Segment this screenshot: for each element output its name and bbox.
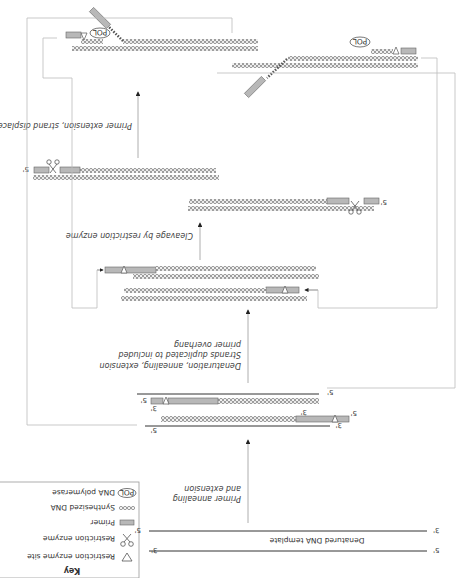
step-label: and extension <box>184 484 241 493</box>
key-title: Key <box>63 566 80 575</box>
primer <box>105 267 156 273</box>
svg-text:5': 5' <box>351 409 357 417</box>
svg-text:5': 5' <box>23 165 29 173</box>
svg-text:3': 3' <box>151 546 157 554</box>
svg-text:5': 5' <box>141 396 147 404</box>
step-label: Denaturation, annealing, extension <box>99 361 241 370</box>
svg-text:3': 3' <box>301 408 307 416</box>
primed-duplexes: 3' 5' 5' 3' 3' 5' 5' <box>137 388 357 434</box>
synthesized-dna <box>218 398 319 404</box>
key-legend: Key Restriction enzyme site Restriction … <box>0 482 139 578</box>
svg-text:3': 3' <box>151 404 157 412</box>
key-item-label: DNA polymerase <box>52 488 115 497</box>
step-label: Cleavage by restriction enzyme <box>66 231 193 240</box>
key-item-label: Restriction enzyme <box>43 534 115 543</box>
svg-text:5': 5' <box>381 198 387 206</box>
primer-overhang <box>151 398 163 404</box>
svg-text:5': 5' <box>151 426 157 434</box>
step-label: Primer extension, strand displacement <box>0 121 132 130</box>
svg-text:POL: POL <box>92 28 107 37</box>
primer <box>168 398 218 404</box>
loop-lines <box>27 18 455 425</box>
diagram-svg: Key Restriction enzyme site Restriction … <box>0 0 467 578</box>
svg-text:5': 5' <box>135 526 141 534</box>
primer <box>296 416 349 422</box>
step-label: Primer annealing <box>173 494 241 503</box>
key-item-label: Restriction enzyme site <box>27 552 115 561</box>
synthesized-dna <box>161 416 296 422</box>
key-item-label: Primer <box>90 518 115 527</box>
strand-displacement: POL POL <box>66 7 418 97</box>
template-label: Denatured DNA template <box>269 536 364 545</box>
step-label: Strands duplicated to included <box>118 350 241 359</box>
key-item-label: Synthesized DNA <box>50 503 115 512</box>
synthesized-dna-icon <box>119 506 135 510</box>
svg-text:3': 3' <box>433 526 439 534</box>
svg-text:POL: POL <box>119 488 134 497</box>
step-label: primer overhang <box>174 340 242 349</box>
svg-text:5': 5' <box>433 546 439 554</box>
cleaved-duplexes: 5' 5' <box>23 160 387 214</box>
overhang-duplexes <box>97 266 319 301</box>
primer-icon <box>120 520 134 525</box>
denatured-template: 3' 5' Denatured DNA template 5' 3' <box>135 526 440 554</box>
svg-text:POL: POL <box>352 37 367 46</box>
sda-diagram: Key Restriction enzyme site Restriction … <box>0 0 467 578</box>
svg-text:5': 5' <box>327 388 333 396</box>
